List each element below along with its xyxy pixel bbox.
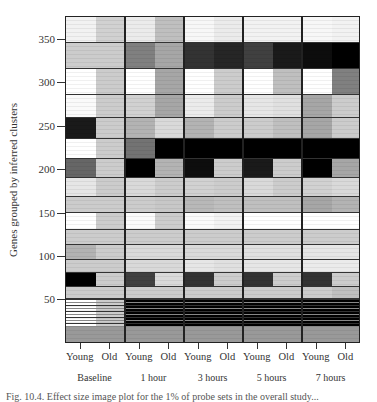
texture-stripe [66,263,359,264]
texture-stripe [66,76,359,77]
texture-stripe [66,200,359,201]
texture-stripe [66,204,359,205]
thin-cluster-stripe [66,320,359,321]
y-tick [57,126,65,127]
thin-cluster-stripe [66,305,359,306]
texture-stripe [66,334,359,335]
group-label: 5 hours [242,372,302,383]
group-label: Baseline [65,372,125,383]
thin-cluster-stripe [66,311,359,312]
texture-stripe [66,276,359,277]
thin-cluster-stripe [66,299,359,300]
texture-stripe [66,121,359,122]
group-divider [301,17,303,342]
thin-cluster-stripe [66,326,359,327]
texture-stripe [66,284,359,285]
y-axis-title: Genes grouped by inferred clusters [7,103,19,257]
texture-stripe [66,50,359,51]
texture-stripe [66,40,359,41]
group-label: 1 hour [124,372,184,383]
x-tick [80,343,81,349]
texture-stripe [66,306,359,307]
texture-stripe [66,106,359,107]
y-tick-label: 200 [39,163,56,175]
y-tick-label: 150 [39,207,56,219]
texture-stripe [66,241,359,242]
x-tick [227,343,228,349]
x-tick [168,343,169,349]
texture-stripe [66,24,359,25]
texture-stripe [66,252,359,253]
texture-stripe [66,267,359,268]
texture-stripe [66,237,359,238]
y-tick-label: 50 [44,293,55,305]
y-tick [57,299,65,300]
thin-cluster-stripe [66,323,359,324]
texture-stripe [66,330,359,331]
x-tick [109,343,110,349]
texture-stripe [66,220,359,221]
texture-stripe [66,338,359,339]
texture-stripe [66,146,359,147]
y-tick [57,169,65,170]
texture-stripe [66,110,359,111]
texture-stripe [66,154,359,155]
x-tick [345,343,346,349]
x-tick [198,343,199,349]
y-tick [57,256,65,257]
x-tick [139,343,140,349]
y-tick-label: 300 [39,76,56,88]
texture-stripe [66,193,359,194]
texture-stripe [66,98,359,99]
texture-stripe [66,36,359,37]
texture-stripe [66,189,359,190]
y-tick [57,82,65,83]
texture-stripe [66,28,359,29]
texture-stripe [66,174,359,175]
texture-stripe [66,46,359,47]
texture-stripe [66,280,359,281]
y-tick [57,213,65,214]
texture-stripe [66,133,359,134]
texture-stripe [66,32,359,33]
texture-stripe [66,142,359,143]
texture-stripe [66,248,359,249]
figure-caption: Fig. 10.4. Effect size image plot for th… [6,391,319,402]
thin-cluster-stripe [66,317,359,318]
x-tick [286,343,287,349]
texture-stripe [66,54,359,55]
y-tick-label: 100 [39,250,56,262]
texture-stripe [66,318,359,319]
x-tick-label: Old [328,351,362,362]
texture-stripe [66,62,359,63]
group-divider [124,17,126,342]
thin-cluster-stripe [66,314,359,315]
texture-stripe [66,20,359,21]
group-label: 3 hours [183,372,243,383]
texture-stripe [66,185,359,186]
texture-stripe [66,84,359,85]
texture-stripe [66,233,359,234]
texture-stripe [66,80,359,81]
texture-stripe [66,208,359,209]
y-tick-label: 350 [39,33,56,45]
texture-stripe [66,150,359,151]
texture-stripe [66,125,359,126]
texture-stripe [66,102,359,103]
y-tick [57,39,65,40]
group-divider [242,17,244,342]
heatmap-plot [65,16,360,343]
texture-stripe [66,88,359,89]
texture-stripe [66,294,359,295]
thin-cluster-stripe [66,308,359,309]
texture-stripe [66,114,359,115]
texture-stripe [66,92,359,93]
texture-stripe [66,58,359,59]
group-label: 7 hours [301,372,361,383]
texture-stripe [66,166,359,167]
texture-stripe [66,66,359,67]
texture-stripe [66,256,359,257]
thin-cluster-stripe [66,302,359,303]
texture-stripe [66,170,359,171]
texture-stripe [66,162,359,163]
